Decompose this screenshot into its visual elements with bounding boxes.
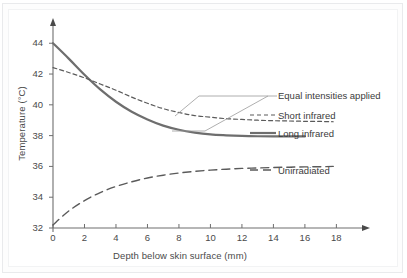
y-tick-label-40: 40	[21, 99, 43, 110]
x-axis-title: Depth below skin surface (mm)	[0, 250, 360, 261]
x-tick-label-6: 6	[136, 232, 158, 243]
x-tick-label-2: 2	[73, 232, 95, 243]
x-tick-label-8: 8	[168, 232, 190, 243]
annotation-leader-lines	[172, 96, 268, 131]
x-tick-label-14: 14	[262, 232, 284, 243]
x-tick-label-0: 0	[42, 232, 64, 243]
leader-diagonal-right	[205, 96, 268, 131]
x-tick-label-16: 16	[294, 232, 316, 243]
x-axis-arrowhead	[362, 225, 370, 231]
x-tick-label-10: 10	[199, 232, 221, 243]
y-tick-label-32: 32	[21, 222, 43, 233]
series-label-long-infrared: Long infrared	[278, 128, 334, 139]
annotation-label-equal-intensities: Equal intensities applied	[278, 90, 380, 101]
series-label-short-infrared: Short infrared	[278, 110, 336, 121]
series-line-long-infrared	[53, 43, 305, 136]
y-tick-label-44: 44	[21, 37, 43, 48]
figure-container: Depth below skin surface (mm) Temperatur…	[0, 0, 407, 278]
x-tick-label-12: 12	[231, 232, 253, 243]
y-tick-label-38: 38	[21, 130, 43, 141]
x-tick-label-18: 18	[325, 232, 347, 243]
x-tick-marks	[53, 224, 336, 228]
y-tick-label-36: 36	[21, 160, 43, 171]
y-tick-marks	[49, 43, 53, 228]
legend-connector-group	[250, 96, 277, 170]
leader-to-short-infrared	[175, 96, 199, 116]
axes-group	[50, 18, 370, 232]
y-tick-label-34: 34	[21, 191, 43, 202]
y-axis-arrowhead	[50, 18, 56, 26]
x-tick-label-4: 4	[105, 232, 127, 243]
series-label-unirradiated: Unirradiated	[278, 165, 330, 176]
y-tick-label-42: 42	[21, 68, 43, 79]
